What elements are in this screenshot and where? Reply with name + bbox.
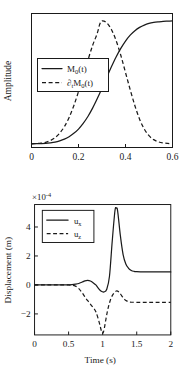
x-tick-label: 0 bbox=[29, 152, 34, 162]
x-tick-label: 1.5 bbox=[131, 339, 143, 349]
x-tick-label: 2 bbox=[168, 339, 173, 349]
y-axis-title-top: Amplitude bbox=[3, 61, 13, 102]
x-tick-label: 0 bbox=[32, 339, 37, 349]
x-axis-ticklabels-bottom: 00.511.52 bbox=[32, 339, 173, 349]
source-time-function-svg: Amplitude 00.20.40.6 M0(t) ∂tM0(t) bbox=[0, 0, 181, 185]
y-axis-title-bottom: Displacement (m) bbox=[3, 237, 13, 303]
y-axis-ticklabels-bottom: −2024 bbox=[21, 222, 31, 319]
x-axis-title-bottom: Time (s) bbox=[85, 355, 116, 365]
displacement-svg: ×10-4 Displacement (m) Time (s) 00.511.5… bbox=[0, 185, 181, 371]
y-tick-label: −2 bbox=[21, 309, 31, 319]
y-axis-ticks-bottom bbox=[35, 227, 38, 314]
y-tick-label: 4 bbox=[26, 222, 31, 232]
y-axis-exponent-label: ×10-4 bbox=[32, 191, 52, 202]
x-tick-label: 0.6 bbox=[167, 152, 179, 162]
chart-panel-displacement: ×10-4 Displacement (m) Time (s) 00.511.5… bbox=[0, 185, 181, 371]
legend-label-dt-m0: ∂tM0(t) bbox=[67, 78, 93, 89]
legend-bottom: ux uz bbox=[42, 210, 94, 242]
legend-box-bottom bbox=[42, 210, 94, 242]
x-tick-label: 0.4 bbox=[120, 152, 132, 162]
x-axis-ticks-top bbox=[32, 144, 173, 148]
y-tick-label: 2 bbox=[26, 251, 31, 261]
figure-container: Amplitude 00.20.40.6 M0(t) ∂tM0(t) bbox=[0, 0, 181, 371]
x-tick-label: 1 bbox=[100, 339, 105, 349]
x-axis-ticklabels-top: 00.20.40.6 bbox=[29, 152, 179, 162]
chart-panel-source-time-function: Amplitude 00.20.40.6 M0(t) ∂tM0(t) bbox=[0, 0, 181, 185]
x-tick-label: 0.5 bbox=[63, 339, 75, 349]
y-tick-label: 0 bbox=[26, 280, 31, 290]
legend-top: M0(t) ∂tM0(t) bbox=[38, 59, 109, 92]
x-tick-label: 0.2 bbox=[73, 152, 85, 162]
